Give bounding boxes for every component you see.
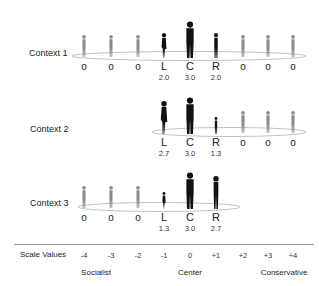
context-3-other-figure bbox=[109, 186, 113, 208]
context-1-other-figure bbox=[136, 35, 140, 57]
scale-tick-label: +4 bbox=[284, 251, 302, 260]
context-1-other-figure bbox=[109, 35, 113, 57]
context-3-score-C: 3.0 bbox=[180, 224, 200, 233]
context-1-figure-L bbox=[162, 33, 167, 58]
context-1-label-R: R bbox=[208, 60, 224, 72]
other-marker: o bbox=[260, 137, 276, 148]
scale-axis-line bbox=[14, 244, 314, 245]
context-2-label-L: L bbox=[156, 136, 172, 148]
other-marker: o bbox=[235, 137, 251, 148]
context-3-other-figure bbox=[136, 186, 140, 208]
scale-tick-label: 0 bbox=[181, 251, 199, 260]
scale-tick-label: +3 bbox=[259, 251, 277, 260]
context-1-label: Context 1 bbox=[29, 48, 68, 58]
context-3-label-R: R bbox=[208, 211, 224, 223]
context-1-score-L: 2.0 bbox=[154, 73, 174, 82]
scale-tick-label: -4 bbox=[75, 251, 93, 260]
context-1-figure-R bbox=[214, 33, 218, 58]
context-3-label: Context 3 bbox=[30, 198, 69, 208]
other-marker: o bbox=[260, 61, 276, 72]
scale-tick-label: -3 bbox=[102, 251, 120, 260]
context-3-score-L: 1.3 bbox=[154, 224, 174, 233]
context-2-score-C: 3.0 bbox=[180, 149, 200, 158]
other-marker: o bbox=[130, 212, 146, 223]
context-1-score-R: 2.0 bbox=[206, 73, 226, 82]
context-2-other-figure bbox=[241, 111, 245, 133]
context-2-label-C: C bbox=[182, 136, 198, 148]
context-3-other-figure bbox=[82, 186, 86, 208]
pole-socialist: Socialist bbox=[81, 268, 111, 277]
other-marker: o bbox=[285, 137, 301, 148]
context-2-label-R: R bbox=[208, 136, 224, 148]
context-3-figure-C bbox=[186, 173, 193, 210]
context-2-figure-R bbox=[215, 117, 218, 134]
context-2-label: Context 2 bbox=[30, 124, 69, 134]
context-2-score-L: 2.7 bbox=[154, 149, 174, 158]
scale-tick-label: +1 bbox=[207, 251, 225, 260]
context-3-label-C: C bbox=[182, 211, 198, 223]
context-3-score-R: 2.7 bbox=[206, 224, 226, 233]
context-scale-diagram: Context 1 Context 2 Context 3 oooL2.0C3.… bbox=[0, 0, 319, 286]
other-marker: o bbox=[130, 61, 146, 72]
other-marker: o bbox=[76, 212, 92, 223]
context-1-figure-C bbox=[186, 22, 193, 59]
context-1-score-C: 3.0 bbox=[180, 73, 200, 82]
context-1-label-C: C bbox=[182, 60, 198, 72]
context-2-ellipse bbox=[152, 128, 306, 137]
other-marker: o bbox=[235, 61, 251, 72]
context-2-other-figure bbox=[266, 111, 270, 133]
pole-conservative: Conservative bbox=[261, 268, 308, 277]
context-3-figure-L bbox=[162, 192, 165, 209]
scale-values-label: Scale Values bbox=[20, 250, 66, 259]
other-marker: o bbox=[76, 61, 92, 72]
context-2-score-R: 1.3 bbox=[206, 149, 226, 158]
scale-tick-label: -1 bbox=[155, 251, 173, 260]
other-marker: o bbox=[103, 212, 119, 223]
other-marker: o bbox=[103, 61, 119, 72]
scale-tick-label: -2 bbox=[129, 251, 147, 260]
scale-tick-label: +2 bbox=[234, 251, 252, 260]
context-1-other-figure bbox=[241, 35, 245, 57]
context-3-label-L: L bbox=[156, 211, 172, 223]
pole-center: Center bbox=[178, 268, 202, 277]
context-1-other-figure bbox=[266, 35, 270, 57]
other-marker: o bbox=[285, 61, 301, 72]
context-1-label-L: L bbox=[156, 60, 172, 72]
